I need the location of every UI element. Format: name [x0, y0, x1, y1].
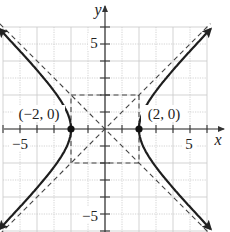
y-axis-label: y — [92, 1, 102, 19]
vertex-label-left: (−2, 0) — [19, 106, 60, 123]
y-tick-label-5: 5 — [90, 35, 98, 51]
hyperbola-graph: (−2, 0)(2, 0)−555−5xy — [0, 0, 230, 232]
vertex-label-right: (2, 0) — [148, 106, 181, 123]
x-axis-label: x — [213, 131, 221, 148]
vertex-point — [67, 125, 74, 132]
y-tick-label-neg5: −5 — [82, 208, 98, 224]
x-tick-label-5: 5 — [185, 136, 193, 152]
vertex-point — [135, 125, 142, 132]
x-tick-label-neg5: −5 — [12, 136, 28, 152]
